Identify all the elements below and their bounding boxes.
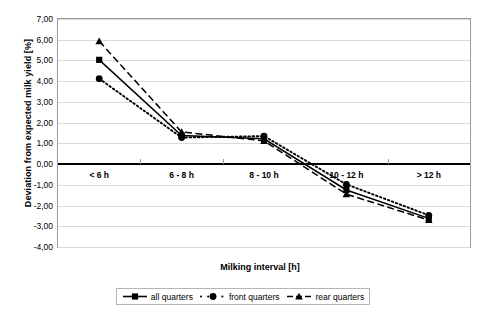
legend-label: rear quarters <box>315 292 364 302</box>
series-rear-quarters <box>95 37 432 223</box>
y-axis-tick-label: 6,00 <box>1 35 53 45</box>
series-overlay <box>58 19 470 247</box>
x-axis-title: Milking interval [h] <box>60 262 460 272</box>
data-point-square <box>96 57 102 63</box>
data-point-circle <box>343 181 350 188</box>
gridline <box>58 247 470 248</box>
legend-entry-rear-quarters[interactable]: rear quarters <box>286 291 364 302</box>
y-axis-tick-label: 4,00 <box>1 76 53 86</box>
data-point-circle <box>178 134 185 141</box>
y-axis-tick-label: 7,00 <box>1 14 53 24</box>
y-axis-tick-labels: 7,006,005,004,003,002,001,000,00-1,00-2,… <box>0 18 53 248</box>
data-point-circle <box>96 75 103 82</box>
y-axis-tick-label: 2,00 <box>1 118 53 128</box>
legend-marker-circle-icon <box>200 291 226 302</box>
series-line <box>99 41 429 220</box>
y-axis-tick-label: 1,00 <box>1 138 53 148</box>
y-axis-tick-label: 0,00 <box>1 159 53 169</box>
data-point-triangle <box>95 37 103 44</box>
legend-marker-square-icon <box>122 291 148 302</box>
y-axis-tick-label: -3,00 <box>1 221 53 231</box>
plot-area: < 6 h6 - 8 h8 - 10 h10 - 12 h> 12 h <box>57 18 471 248</box>
legend-label: all quarters <box>151 292 193 302</box>
chart-legend: all quartersfront quartersrear quarters <box>116 288 370 305</box>
legend-entry-all-quarters[interactable]: all quarters <box>122 291 193 302</box>
y-axis-tick-label: -2,00 <box>1 201 53 211</box>
legend-label: front quarters <box>229 292 280 302</box>
y-axis-tick-label: -4,00 <box>1 242 53 252</box>
series-front-quarters <box>96 75 432 218</box>
legend-entry-front-quarters[interactable]: front quarters <box>200 291 280 302</box>
series-line <box>99 79 429 216</box>
y-axis-tick-label: -1,00 <box>1 180 53 190</box>
data-point-circle <box>210 293 217 300</box>
y-axis-tick-label: 5,00 <box>1 55 53 65</box>
data-point-square <box>132 293 138 299</box>
y-axis-tick-label: 3,00 <box>1 97 53 107</box>
chart-container: Deviation from expected milk yield [%] 7… <box>0 0 481 312</box>
legend-marker-triangle-icon <box>286 291 312 302</box>
